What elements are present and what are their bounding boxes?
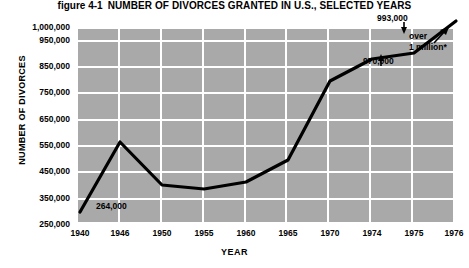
x-tick-label: 1976 [445,228,464,238]
x-tick-label: 1940 [71,228,90,238]
x-tick-label: 1974 [363,228,382,238]
x-axis-title: YEAR [0,247,469,257]
x-axis-ticks: 1940 1946 1950 1955 1960 1965 1970 1974 … [0,0,469,268]
x-tick-label: 1975 [405,228,424,238]
x-tick-label: 1965 [279,228,298,238]
x-tick-label: 1950 [153,228,172,238]
x-tick-label: 1955 [195,228,214,238]
figure-divorces-chart: figure 4-1 NUMBER OF DIVORCES GRANTED IN… [0,0,469,268]
x-tick-label: 1970 [321,228,340,238]
x-tick-label: 1960 [237,228,256,238]
x-tick-label: 1946 [111,228,130,238]
